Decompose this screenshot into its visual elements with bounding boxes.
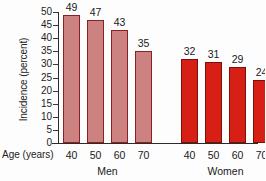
- y-tick-label: 25: [26, 73, 52, 83]
- group-label: Men: [68, 165, 148, 177]
- x-tick-label: 70: [131, 149, 156, 161]
- bar-value-label: 47: [83, 7, 108, 18]
- bar: [229, 67, 246, 143]
- x-tick-label: 40: [177, 149, 202, 161]
- bar: [253, 80, 265, 143]
- x-axis-line: [52, 143, 258, 144]
- y-tick-label: 30: [26, 59, 52, 69]
- bar: [87, 20, 104, 143]
- bar-value-label: 31: [201, 49, 226, 60]
- bar: [63, 15, 80, 143]
- x-tick-label: 60: [107, 149, 132, 161]
- y-tick-label: 35: [26, 46, 52, 56]
- x-tick-label: 40: [59, 149, 84, 161]
- bar: [111, 30, 128, 143]
- y-tick-label: 20: [26, 86, 52, 96]
- x-tick-label: 50: [83, 149, 108, 161]
- bar-value-label: 24: [249, 67, 265, 78]
- y-tick-label: 5: [26, 125, 52, 135]
- bar: [181, 59, 198, 143]
- plot-area: 4947433532312924: [59, 12, 258, 143]
- y-tick-label: 40: [26, 33, 52, 43]
- bar-value-label: 35: [131, 38, 156, 49]
- y-tick-label: 10: [26, 112, 52, 122]
- bar-chart: Incidence (percent) 50454035302520151050…: [0, 0, 265, 181]
- x-tick-label: 60: [225, 149, 250, 161]
- bar-value-label: 49: [59, 2, 84, 13]
- x-tick-label: 70: [249, 149, 265, 161]
- x-axis-label: Age (years): [2, 149, 54, 160]
- y-axis-tick-labels: 50454035302520151050: [26, 8, 52, 148]
- bar: [205, 62, 222, 143]
- bar: [135, 51, 152, 143]
- y-tick-label: 45: [26, 20, 52, 30]
- x-tick-label: 50: [201, 149, 226, 161]
- bar-value-label: 43: [107, 17, 132, 28]
- group-label: Women: [186, 165, 266, 177]
- y-tick-label: 50: [26, 7, 52, 17]
- y-tick-label: 0: [26, 138, 52, 148]
- bar-value-label: 29: [225, 54, 250, 65]
- bar-value-label: 32: [177, 46, 202, 57]
- y-tick-label: 15: [26, 99, 52, 109]
